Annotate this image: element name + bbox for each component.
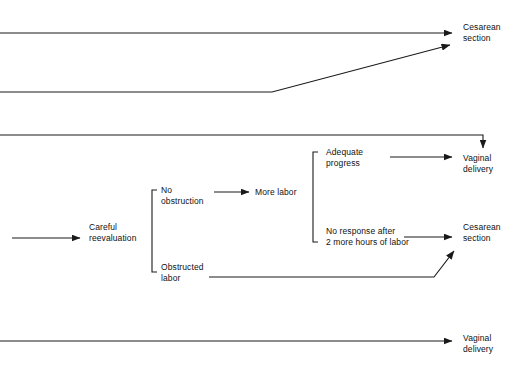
connector-obstructed-labor-to-cesarean <box>209 251 454 277</box>
bracket-path <box>313 152 318 242</box>
node-vaginal-delivery-upper: Vaginal delivery <box>463 153 493 175</box>
node-cesarean-section-middle: Cesarean section <box>463 222 501 244</box>
arrow-polyline-down <box>0 135 483 148</box>
node-no-obstruction: No obstruction <box>161 185 204 207</box>
connector-third-line-down-to-vaginal <box>0 135 483 148</box>
connector-second-line-diagonal-to-cesarean <box>0 45 450 92</box>
node-cesarean-section-top: Cesarean section <box>463 22 501 44</box>
bracket-more-labor <box>313 152 318 242</box>
node-no-response-after-2-more-hours: No response after 2 more hours of labor <box>326 226 409 248</box>
bracket-reevaluation <box>152 190 157 272</box>
node-adequate-progress: Adequate progress <box>326 147 363 169</box>
flowchart-canvas <box>0 0 521 371</box>
node-vaginal-delivery-lower: Vaginal delivery <box>463 333 493 355</box>
node-more-labor: More labor <box>255 187 297 198</box>
node-obstructed-labor: Obstructed labor <box>161 262 204 284</box>
arrow-polyline <box>0 45 450 92</box>
bracket-path <box>152 190 157 272</box>
node-careful-reevaluation: Careful reevaluation <box>89 222 137 244</box>
arrow-polyline <box>209 251 454 277</box>
